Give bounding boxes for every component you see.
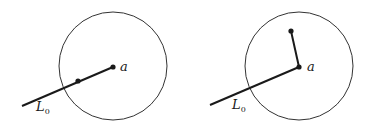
right-branch-segment <box>291 31 299 67</box>
left-center-point <box>110 64 115 69</box>
right-diagram: a L0 <box>210 12 353 120</box>
left-boundary-point <box>75 78 80 83</box>
right-ray-label: L0 <box>231 97 246 114</box>
left-diagram: a L0 <box>22 12 167 120</box>
right-branch-endpoint <box>288 28 293 33</box>
right-ray-L0 <box>210 67 299 105</box>
right-center-point <box>296 64 301 69</box>
left-ray-label: L0 <box>35 99 50 116</box>
right-center-label: a <box>307 59 315 74</box>
left-center-label: a <box>120 59 128 74</box>
